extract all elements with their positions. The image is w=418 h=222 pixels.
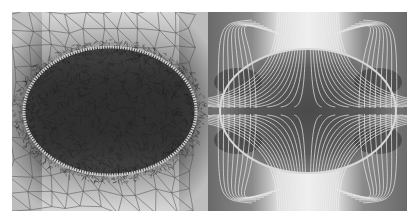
field-panel <box>208 12 407 211</box>
mesh-panel <box>12 12 209 211</box>
mesh-figure <box>12 12 209 211</box>
field-figure <box>208 12 407 211</box>
